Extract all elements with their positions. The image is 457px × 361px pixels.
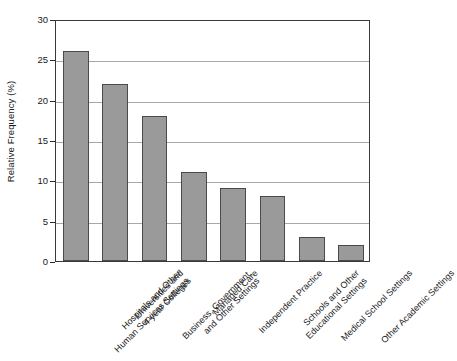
plot-area — [55, 20, 370, 262]
y-axis-tick-labels: 051015202530 — [24, 20, 48, 262]
bars-layer — [56, 21, 369, 261]
y-axis-title-text: Relative Frequency (%) — [6, 80, 17, 181]
x-axis-tick-label-line: Managed Care — [210, 268, 259, 317]
bar — [142, 116, 168, 261]
y-axis-tick-label: 15 — [24, 136, 48, 146]
x-axis-tick-label: Managed Care — [210, 268, 260, 318]
y-axis-tick-label: 10 — [24, 176, 48, 186]
x-axis-tick-label: Other Academic Settings — [379, 268, 456, 345]
bar — [338, 245, 364, 261]
bar — [102, 84, 128, 261]
x-axis-tick-labels: Hospitals and OtherHuman Services Settin… — [55, 262, 370, 361]
y-axis-tick-label: 25 — [24, 55, 48, 65]
bar — [63, 51, 89, 261]
y-axis-tick-label: 0 — [24, 257, 48, 267]
bar — [260, 196, 286, 261]
y-axis-title: Relative Frequency (%) — [0, 0, 22, 262]
x-axis-tick-label-line: and Other Settings — [188, 275, 262, 349]
bar — [299, 237, 325, 261]
y-axis-tick-label: 5 — [24, 217, 48, 227]
x-axis-tick-label: Universities and4-year Colleges — [133, 268, 193, 328]
y-axis-tick-label: 30 — [24, 15, 48, 25]
bar — [220, 188, 246, 261]
x-axis-tick-label-line: Other Academic Settings — [379, 268, 456, 345]
y-axis-tick-label: 20 — [24, 96, 48, 106]
bar — [181, 172, 207, 261]
